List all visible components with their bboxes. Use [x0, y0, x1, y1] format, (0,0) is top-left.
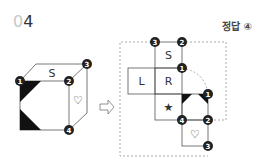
net-dashed-boundary	[120, 42, 226, 156]
svg-text:2: 2	[67, 78, 72, 86]
svg-text:4: 4	[67, 127, 72, 135]
cube-vertex-4: 4	[64, 125, 74, 135]
net-vertex-1-upper: 1	[177, 63, 187, 73]
net-vertex-3-bottom: 3	[203, 141, 213, 151]
net-label-r: R	[165, 75, 173, 88]
svg-text:1: 1	[206, 91, 211, 99]
cube-heart-icon: ♡	[73, 94, 83, 107]
svg-text:1: 1	[18, 78, 23, 86]
cube-vertex-2: 2	[64, 76, 74, 86]
net-label-l: L	[138, 75, 145, 88]
net-vertex-2-top: 2	[177, 37, 187, 47]
cube-black-triangles	[20, 81, 41, 130]
net-vertex-4: 4	[177, 115, 187, 125]
svg-text:3: 3	[206, 143, 211, 151]
svg-text:2: 2	[206, 117, 211, 125]
cube-top-label: S	[49, 67, 56, 80]
arrow-icon	[100, 100, 114, 114]
svg-text:3: 3	[153, 39, 158, 47]
net-vertex-1-right: 1	[203, 89, 213, 99]
star-icon: ★	[164, 101, 174, 114]
cube-vertex-3: 3	[82, 59, 92, 69]
svg-text:2: 2	[180, 39, 185, 47]
svg-text:4: 4	[180, 117, 185, 125]
net-vertex-2-lower: 2	[203, 115, 213, 125]
net-heart-icon: ♡	[190, 128, 200, 141]
svg-text:1: 1	[180, 65, 185, 73]
svg-text:3: 3	[85, 61, 90, 69]
diagram: S ♡ 1 2 3 4 S L R ★ ♡ 3 2 1 1 4 2 3	[0, 0, 277, 167]
cube-vertex-1: 1	[15, 76, 25, 86]
net-vertex-3-top: 3	[150, 37, 160, 47]
net-label-s: S	[165, 49, 172, 62]
